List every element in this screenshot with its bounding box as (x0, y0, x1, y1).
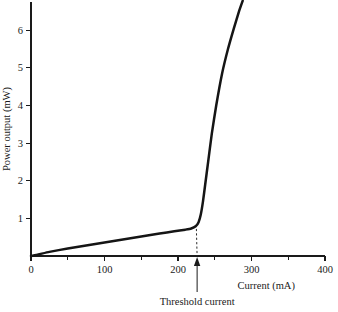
x-axis-title: Current (mA) (237, 280, 295, 292)
x-tick-label-300: 300 (244, 264, 260, 275)
y-tick-label-1: 1 (18, 213, 23, 224)
y-axis-tick-labels: 123456 (18, 25, 24, 224)
axes-group (31, 2, 325, 256)
power-output-curve (31, 1, 243, 256)
x-axis-major-ticks (31, 256, 325, 261)
threshold-dashed-guide (196, 229, 197, 256)
x-tick-label-400: 400 (317, 264, 333, 275)
y-tick-label-3: 3 (18, 138, 23, 149)
y-axis-title: Power output (mW) (1, 87, 13, 171)
x-tick-label-100: 100 (97, 264, 113, 275)
x-tick-label-200: 200 (170, 264, 186, 275)
threshold-current-label: Threshold current (160, 296, 235, 307)
y-tick-label-6: 6 (18, 25, 23, 36)
y-axis-major-ticks (26, 30, 31, 218)
figure-container: 0100200300400 123456 Current (mA) Power … (0, 0, 338, 312)
y-tick-label-5: 5 (18, 62, 23, 73)
threshold-arrow-head (194, 257, 200, 266)
power-current-chart: 0100200300400 123456 Current (mA) Power … (0, 0, 338, 312)
x-tick-label-0: 0 (28, 264, 33, 275)
threshold-annotation-group (194, 229, 200, 292)
x-axis-tick-labels: 0100200300400 (28, 264, 333, 275)
y-tick-label-4: 4 (18, 100, 24, 111)
y-tick-label-2: 2 (18, 175, 23, 186)
